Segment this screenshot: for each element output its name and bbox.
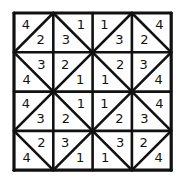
triangle-number: 4: [155, 17, 163, 32]
triangle-number: 2: [116, 57, 124, 72]
triangle-number: 4: [154, 72, 162, 87]
triangle-number: 1: [100, 96, 108, 111]
cell-diagonal: [14, 131, 53, 170]
triangle-number: 2: [37, 32, 45, 47]
triangle-number: 4: [155, 96, 163, 111]
triangle-number: 3: [37, 111, 45, 126]
triangle-number: 2: [61, 57, 69, 72]
triangle-number: 3: [115, 32, 123, 47]
triangle-number: 3: [61, 135, 69, 150]
cell-diagonal: [93, 13, 132, 52]
triangle-number: 3: [140, 111, 148, 126]
cell-diagonal: [132, 13, 171, 52]
triangle-number-grid: 42131342342121344312124324313124: [0, 0, 180, 187]
triangle-number: 1: [76, 150, 84, 165]
triangle-number: 4: [22, 72, 30, 87]
cell-diagonal: [93, 52, 132, 91]
triangle-number: 2: [62, 111, 70, 126]
cell-diagonal: [53, 13, 92, 52]
cell-diagonal: [132, 131, 171, 170]
triangle-number: 4: [22, 150, 30, 165]
cell-diagonal: [132, 52, 171, 91]
triangle-number: 3: [37, 57, 45, 72]
triangle-number: 3: [62, 32, 70, 47]
triangle-number: 2: [140, 32, 148, 47]
triangle-number: 1: [101, 72, 109, 87]
triangle-number: 1: [76, 72, 84, 87]
triangle-number: 2: [37, 135, 45, 150]
triangle-number: 4: [22, 17, 30, 32]
cell-diagonal: [93, 131, 132, 170]
cell-diagonal: [14, 92, 53, 131]
triangle-number: 1: [77, 96, 85, 111]
triangle-number: 1: [101, 150, 109, 165]
triangle-number: 2: [140, 135, 148, 150]
cell-diagonal: [53, 131, 92, 170]
cell-diagonal: [93, 92, 132, 131]
cell-diagonal: [132, 92, 171, 131]
triangle-number: 3: [116, 135, 124, 150]
triangle-number: 4: [22, 96, 30, 111]
cell-diagonal: [53, 92, 92, 131]
cell-diagonal: [14, 13, 53, 52]
cell-diagonal: [53, 52, 92, 91]
triangle-number: 3: [140, 57, 148, 72]
triangle-number: 4: [154, 150, 162, 165]
triangle-number: 1: [100, 17, 108, 32]
triangle-number: 1: [77, 17, 85, 32]
triangle-number: 2: [115, 111, 123, 126]
cell-diagonal: [14, 52, 53, 91]
